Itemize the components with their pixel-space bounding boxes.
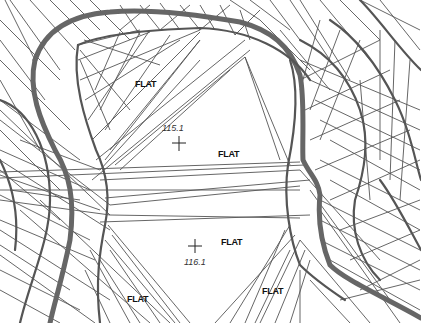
flat-label: FLAT: [262, 286, 284, 296]
contour-lines: [0, 0, 421, 323]
flat-label: FLAT: [218, 149, 240, 159]
flat-label: FLAT: [135, 79, 157, 89]
spot-elevation-label: 115.1: [162, 123, 184, 133]
tin-surface-diagram: FLAT FLAT FLAT FLAT FLAT 115.1 116.1: [0, 0, 421, 333]
spot-elevation-marker: 116.1: [184, 239, 206, 267]
flat-label: FLAT: [221, 237, 243, 247]
flat-label: FLAT: [127, 294, 149, 304]
spot-elevations: 115.1 116.1: [162, 123, 206, 267]
bottom-margin: [0, 323, 421, 333]
flat-labels: FLAT FLAT FLAT FLAT FLAT: [127, 79, 284, 304]
spot-elevation-label: 116.1: [184, 257, 206, 267]
spot-elevation-marker: 115.1: [162, 123, 186, 151]
